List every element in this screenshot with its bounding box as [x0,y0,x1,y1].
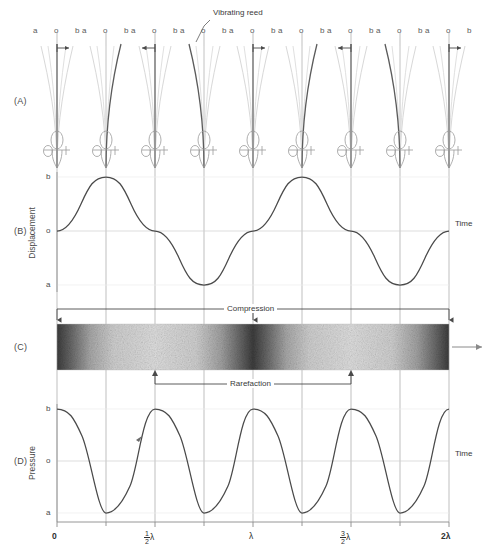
figure-root: (A) (B) (C) (D) Displacement Pressure b … [0,0,493,556]
reed-label-b-5: b [271,26,275,35]
reed-label-b-8: b [418,26,422,35]
y-tick-b-panel-b: b [46,172,50,181]
y-axis-title-displacement: Displacement [27,197,37,269]
panel-label-b: (B) [14,226,27,236]
reed-label-b-3: b [173,26,177,35]
y-axis-title-pressure: Pressure [27,435,37,491]
reed-2 [90,44,121,168]
y-tick-a-panel-b: a [46,280,50,289]
vibrating-reed-label: Vibrating reed [213,8,263,17]
reed-label-a-6: a [278,26,282,35]
x-tick-2-lambda: 2λ [441,531,450,541]
reed-label-a-4: a [180,26,184,35]
reed-label-o-3: o [152,26,156,35]
time-label-panel-d: Time [455,449,472,458]
x-tick-lambda: λ [249,531,253,541]
lambda-symbol-half: λ [150,532,154,542]
lambda-symbol-three-half: λ [346,532,350,542]
reed-label-o-9: o [446,26,450,35]
reed-label-o-8: o [397,26,401,35]
fraction-one-half: 1 2 [144,530,150,545]
reed-label-o-5: o [250,26,254,35]
reed-label-b-6: b [320,26,324,35]
reed-label-o-6: o [299,26,303,35]
y-tick-a-panel-d: a [46,508,50,517]
reed-label-a-9: a [425,26,429,35]
density-band [57,324,449,370]
panel-label-c: (C) [14,342,27,352]
rarefaction-label: Rarefaction [227,379,274,388]
x-tick-half-lambda: 1 2 λ [144,530,154,545]
x-tick-0: 0 [52,531,57,541]
reed-label-b-1: b [75,26,79,35]
reed-label-b-9: b [467,26,471,35]
reed-label-o-4: o [201,26,205,35]
reed-label-a-2: a [82,26,86,35]
reed-label-o-2: o [103,26,107,35]
reed-label-b-2: b [124,26,128,35]
panel-label-d: (D) [14,456,27,466]
y-tick-b-panel-d: b [46,404,50,413]
reed-4 [189,44,220,168]
reed-label-a-7: a [327,26,331,35]
y-tick-o-panel-b: o [46,226,50,235]
reed-8 [385,44,416,168]
reed-label-a-1: a [33,26,37,35]
time-label-panel-b: Time [455,219,472,228]
reed-label-o-7: o [348,26,352,35]
reed-label-b-7: b [369,26,373,35]
reed-label-o-1: o [54,26,58,35]
x-tick-three-half-lambda: 3 2 λ [340,530,350,545]
reed-label-a-8: a [376,26,380,35]
reed-label-a-3: a [131,26,135,35]
reed-label-a-5: a [229,26,233,35]
figure-canvas [0,0,493,556]
x-axis-ticks [57,522,449,527]
reed-6 [286,44,317,168]
y-tick-o-panel-d: o [46,456,50,465]
panel-c-density [57,309,482,384]
panel-label-a: (A) [14,96,27,106]
fraction-three-halves: 3 2 [340,530,346,545]
compression-label: Compression [224,304,277,313]
reed-label-b-4: b [222,26,226,35]
